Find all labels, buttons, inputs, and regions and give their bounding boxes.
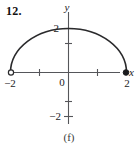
figure-caption-label: (f) <box>0 131 138 144</box>
y-axis-name-label: y <box>64 1 70 13</box>
left-endpoint-open-circle <box>8 70 13 75</box>
right-endpoint-filled-dot <box>123 70 129 76</box>
origin-label: 0 <box>59 76 65 88</box>
x-tick-label-minus-2: −2 <box>4 77 16 89</box>
y-tick-label-2: 2 <box>54 22 60 34</box>
graph-plot: −2 2 0 2 −2 y x <box>0 0 138 151</box>
y-tick-label-minus-2: −2 <box>49 110 61 122</box>
figure-container: 12. −2 2 0 2 −2 y x (f) <box>0 0 138 151</box>
x-tick-label-2: 2 <box>124 77 130 89</box>
x-axis-name-label: x <box>128 66 134 78</box>
